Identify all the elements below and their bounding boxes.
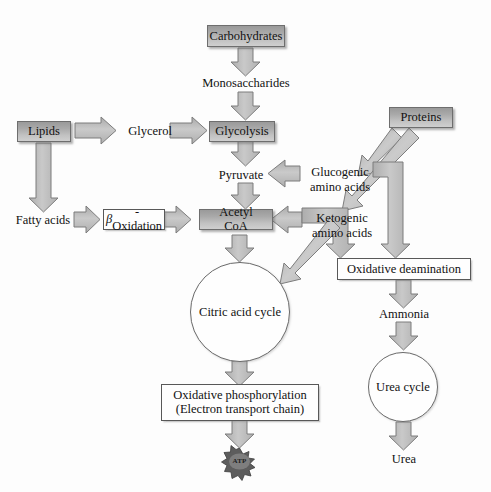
node-fatty-acids: Fatty acids — [8, 210, 78, 229]
node-glucogenic-amino-acids-line2: amino acids — [310, 180, 370, 195]
node-urea-cycle-label: Urea cycle — [376, 380, 430, 394]
node-urea: Urea — [378, 449, 430, 468]
node-glycerol: Glycerol — [120, 121, 180, 140]
node-glycolysis-label: Glycolysis — [215, 124, 268, 138]
node-monosaccharides-label: Monosaccharides — [202, 76, 289, 90]
node-lipids[interactable]: Lipids — [17, 121, 71, 142]
node-proteins[interactable]: Proteins — [389, 107, 453, 128]
node-glycolysis[interactable]: Glycolysis — [209, 121, 275, 142]
arrow-citric-acid-cycle-to-oxidative-phosphorylation — [225, 361, 254, 386]
arrow-lipids-to-glycerol — [75, 117, 116, 144]
node-pyruvate-label: Pyruvate — [219, 168, 263, 182]
node-oxidative-deamination[interactable]: Oxidative deamination — [337, 258, 471, 280]
node-acetyl-coa-label: Acetyl CoA — [207, 205, 265, 233]
arrow-beta-oxidation-to-acetyl-coa — [163, 206, 191, 233]
node-acetyl-coa[interactable]: Acetyl CoA — [199, 209, 273, 230]
node-citric-acid-cycle[interactable]: Citric acid cycle — [190, 262, 290, 362]
node-oxidative-deamination-label: Oxidative deamination — [347, 262, 461, 276]
arrow-lipids-to-fatty-acids — [29, 143, 58, 212]
node-fatty-acids-label: Fatty acids — [16, 213, 71, 227]
arrow-glycolysis-to-pyruvate — [231, 141, 260, 166]
arrow-monosaccharides-to-glycolysis — [231, 92, 260, 120]
arrow-urea-cycle-to-urea — [389, 422, 418, 450]
node-carbohydrates[interactable]: Carbohydrates — [207, 25, 285, 47]
arrow-acetyl-coa-to-citric-acid-cycle — [225, 235, 254, 262]
node-proteins-label: Proteins — [401, 110, 442, 124]
node-monosaccharides: Monosaccharides — [191, 73, 301, 92]
metabolic-pathway-diagram: Carbohydrates Monosaccharides Glycolysis… — [0, 0, 491, 492]
node-urea-label: Urea — [392, 452, 416, 466]
arrow-ammonia-to-urea-cycle — [389, 322, 418, 350]
node-oxidative-phosphorylation-line2: (Electron transport chain) — [176, 402, 304, 416]
node-ammonia: Ammonia — [368, 304, 440, 323]
node-beta-oxidation[interactable]: β-Oxidation — [103, 209, 165, 230]
node-ammonia-label: Ammonia — [379, 307, 429, 321]
node-oxidative-phosphorylation-line1: Oxidative phosphorylation — [173, 388, 307, 402]
node-citric-acid-cycle-label: Citric acid cycle — [199, 305, 281, 319]
arrow-ketogenic-to-acetyl-coa — [271, 206, 302, 233]
node-glucogenic-amino-acids: Glucogenic amino acids — [300, 163, 380, 197]
node-ketogenic-amino-acids-line2: amino acids — [312, 226, 372, 241]
node-urea-cycle[interactable]: Urea cycle — [368, 352, 438, 422]
arrow-oxidative-phosphorylation-to-atp — [225, 420, 254, 448]
node-oxidative-phosphorylation[interactable]: Oxidative phosphorylation (Electron tran… — [161, 384, 319, 421]
node-beta-oxidation-label-suffix: -Oxidation — [112, 205, 162, 233]
arrow-carbohydrates-to-monosaccharides — [231, 48, 260, 76]
node-lipids-label: Lipids — [28, 124, 60, 138]
node-glucogenic-amino-acids-line1: Glucogenic — [311, 165, 369, 180]
node-glycerol-label: Glycerol — [128, 124, 172, 138]
node-carbohydrates-label: Carbohydrates — [210, 29, 283, 43]
node-ketogenic-amino-acids-line1: Ketogenic — [316, 211, 367, 226]
node-pyruvate: Pyruvate — [206, 165, 276, 184]
node-ketogenic-amino-acids: Ketogenic amino acids — [302, 209, 382, 243]
atp-starburst-icon — [222, 446, 256, 481]
